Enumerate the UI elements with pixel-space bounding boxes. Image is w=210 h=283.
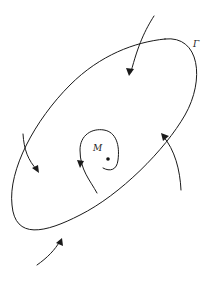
trajectory-top xyxy=(131,16,154,72)
gamma-label: Γ xyxy=(193,40,199,49)
arrowhead-bottom xyxy=(56,238,63,246)
arrowhead-top xyxy=(126,68,134,76)
trajectory-bottom xyxy=(37,241,60,265)
spiral-trajectory xyxy=(80,130,118,193)
trajectory-right xyxy=(163,136,181,190)
point-m-label: M xyxy=(93,144,102,153)
phase-portrait-diagram xyxy=(0,0,210,283)
arrowhead-left xyxy=(32,165,39,173)
point-m xyxy=(106,157,110,161)
trajectory-left xyxy=(23,134,37,170)
closed-curve-gamma xyxy=(12,39,197,230)
